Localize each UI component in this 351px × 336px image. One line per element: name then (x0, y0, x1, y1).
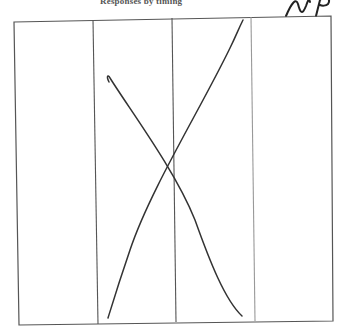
column-divider-2 (172, 18, 176, 322)
response-table (0, 0, 351, 336)
column-divider-3 (251, 17, 255, 321)
column-divider-1 (93, 20, 98, 324)
